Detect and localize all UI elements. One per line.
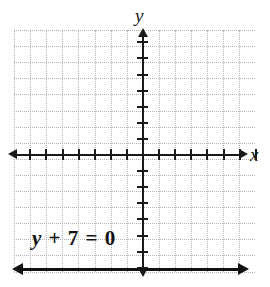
grid-line-horizontal [14,223,255,224]
y-axis-label: y [135,6,143,25]
y-axis-tick [137,122,148,124]
x-axis-tick [78,149,80,160]
y-axis-up-arrow-icon [138,28,148,37]
y-axis-tick [137,218,148,220]
x-axis-label: x [250,145,258,164]
x-axis-tick [29,149,31,160]
y-axis-tick [137,202,148,204]
grid-line-horizontal [14,111,255,112]
x-axis-tick [45,149,47,160]
y-axis-tick [137,57,148,59]
grid-line-horizontal [14,46,255,47]
coordinate-plane-figure: y x y + 7 = 0 [0,0,270,287]
y-axis-tick [137,41,148,43]
y-axis-tick [137,186,148,188]
grid-line-horizontal [14,255,255,256]
x-axis-tick [206,149,208,160]
y-axis-tick [137,170,148,172]
x-axis-tick [223,149,225,160]
x-axis-left-arrow-icon [8,149,17,159]
y-axis-tick [137,90,148,92]
equation-variable: y [32,226,42,250]
grid-line-horizontal [14,159,255,160]
grid-line-horizontal [14,127,255,128]
grid-line-horizontal [14,191,255,192]
y-axis-tick [137,74,148,76]
grid-line-horizontal [14,94,255,95]
x-axis-tick [174,149,176,160]
x-axis-tick [239,149,241,160]
x-axis-tick [110,149,112,160]
y-axis-tick [137,138,148,140]
grid-line-horizontal [14,207,255,208]
plot-line-left-arrow-icon [12,263,23,275]
y-axis-tick [137,235,148,237]
y-axis-tick [137,251,148,253]
x-axis-tick [126,149,128,160]
plot-line-right-arrow-icon [238,263,249,275]
grid-line-horizontal [14,272,255,273]
x-axis-tick [158,149,160,160]
plotted-line-y-equals-negative-7 [22,268,240,271]
equation-annotation: y + 7 = 0 [32,226,116,251]
grid-line-horizontal [14,78,255,79]
grid-line-horizontal [14,30,255,31]
y-axis-tick [137,106,148,108]
y-axis [142,36,144,272]
equation-remainder: + 7 = 0 [42,226,116,250]
grid-line-horizontal [14,175,255,176]
grid-line-horizontal [14,62,255,63]
grid-line-horizontal [14,143,255,144]
x-axis-tick [94,149,96,160]
x-axis-tick [62,149,64,160]
x-axis-tick [190,149,192,160]
